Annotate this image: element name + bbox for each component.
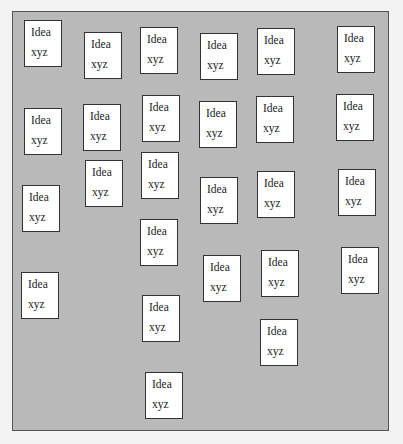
idea-card-title: Idea	[147, 33, 167, 45]
idea-card[interactable]: Ideaxyz	[257, 28, 295, 75]
idea-card-subtitle: xyz	[348, 273, 365, 285]
idea-card-title: Idea	[31, 26, 51, 38]
idea-card-title: Idea	[264, 177, 284, 189]
idea-card-subtitle: xyz	[149, 121, 166, 133]
idea-card[interactable]: Ideaxyz	[338, 169, 376, 216]
idea-card[interactable]: Ideaxyz	[141, 152, 179, 199]
idea-card-subtitle: xyz	[28, 298, 45, 310]
idea-card-title: Idea	[343, 100, 363, 112]
idea-card-subtitle: xyz	[29, 211, 46, 223]
idea-card-title: Idea	[348, 253, 368, 265]
idea-card[interactable]: Ideaxyz	[337, 26, 375, 73]
idea-card-subtitle: xyz	[343, 120, 360, 132]
idea-card-title: Idea	[91, 38, 111, 50]
idea-card-title: Idea	[149, 101, 169, 113]
idea-card-title: Idea	[210, 261, 230, 273]
idea-card-subtitle: xyz	[345, 195, 362, 207]
idea-card-subtitle: xyz	[149, 321, 166, 333]
idea-card-subtitle: xyz	[264, 54, 281, 66]
idea-card[interactable]: Ideaxyz	[257, 171, 295, 218]
idea-card-title: Idea	[152, 378, 172, 390]
idea-card-title: Idea	[207, 39, 227, 51]
idea-card-subtitle: xyz	[147, 53, 164, 65]
idea-card-subtitle: xyz	[31, 134, 48, 146]
idea-card[interactable]: Ideaxyz	[341, 247, 379, 294]
idea-card-title: Idea	[264, 34, 284, 46]
idea-card-title: Idea	[31, 114, 51, 126]
idea-card[interactable]: Ideaxyz	[256, 96, 294, 143]
idea-card[interactable]: Ideaxyz	[200, 33, 238, 80]
idea-card[interactable]: Ideaxyz	[24, 20, 62, 67]
idea-card[interactable]: Ideaxyz	[84, 32, 122, 79]
idea-card-subtitle: xyz	[210, 281, 227, 293]
idea-card-title: Idea	[206, 107, 226, 119]
idea-card[interactable]: Ideaxyz	[203, 255, 241, 302]
idea-card[interactable]: Ideaxyz	[85, 160, 123, 207]
idea-card[interactable]: Ideaxyz	[199, 101, 237, 148]
idea-card-subtitle: xyz	[268, 276, 285, 288]
idea-card-title: Idea	[147, 225, 167, 237]
idea-card-title: Idea	[148, 158, 168, 170]
idea-card[interactable]: Ideaxyz	[145, 372, 183, 419]
idea-card[interactable]: Ideaxyz	[140, 219, 178, 266]
idea-card-title: Idea	[263, 102, 283, 114]
idea-card-title: Idea	[345, 175, 365, 187]
idea-card-subtitle: xyz	[264, 197, 281, 209]
idea-card[interactable]: Ideaxyz	[336, 94, 374, 141]
idea-card[interactable]: Ideaxyz	[142, 95, 180, 142]
idea-card[interactable]: Ideaxyz	[200, 177, 238, 224]
idea-card-subtitle: xyz	[31, 46, 48, 58]
idea-card-subtitle: xyz	[148, 178, 165, 190]
idea-card-title: Idea	[344, 32, 364, 44]
idea-board: IdeaxyzIdeaxyzIdeaxyzIdeaxyzIdeaxyzIdeax…	[12, 11, 389, 431]
idea-card-subtitle: xyz	[152, 398, 169, 410]
idea-card-subtitle: xyz	[263, 122, 280, 134]
idea-card-title: Idea	[207, 183, 227, 195]
idea-card[interactable]: Ideaxyz	[142, 295, 180, 342]
idea-card-subtitle: xyz	[91, 58, 108, 70]
idea-card[interactable]: Ideaxyz	[83, 104, 121, 151]
idea-card-subtitle: xyz	[207, 203, 224, 215]
idea-card-title: Idea	[92, 166, 112, 178]
idea-card-title: Idea	[149, 301, 169, 313]
idea-card-title: Idea	[28, 278, 48, 290]
idea-card-subtitle: xyz	[90, 130, 107, 142]
idea-card[interactable]: Ideaxyz	[24, 108, 62, 155]
idea-card-subtitle: xyz	[344, 52, 361, 64]
idea-card[interactable]: Ideaxyz	[22, 185, 60, 232]
idea-card-title: Idea	[29, 191, 49, 203]
idea-card[interactable]: Ideaxyz	[21, 272, 59, 319]
idea-card-title: Idea	[268, 256, 288, 268]
idea-card-subtitle: xyz	[92, 186, 109, 198]
idea-card[interactable]: Ideaxyz	[140, 27, 178, 74]
idea-card-title: Idea	[90, 110, 110, 122]
idea-card-subtitle: xyz	[147, 245, 164, 257]
idea-card-title: Idea	[267, 325, 287, 337]
idea-card-subtitle: xyz	[207, 59, 224, 71]
idea-card[interactable]: Ideaxyz	[261, 250, 299, 297]
idea-card[interactable]: Ideaxyz	[260, 319, 298, 366]
idea-card-subtitle: xyz	[267, 345, 284, 357]
idea-card-subtitle: xyz	[206, 127, 223, 139]
